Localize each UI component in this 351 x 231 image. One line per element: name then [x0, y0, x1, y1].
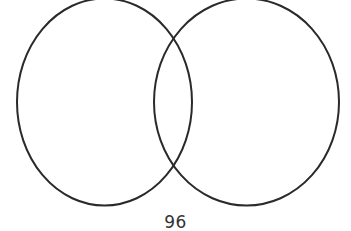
venn-diagram: 96 — [0, 0, 351, 231]
venn-svg — [0, 0, 351, 231]
diagram-caption: 96 — [0, 212, 351, 231]
left-set-ellipse — [17, 0, 192, 206]
right-set-ellipse — [154, 0, 339, 206]
